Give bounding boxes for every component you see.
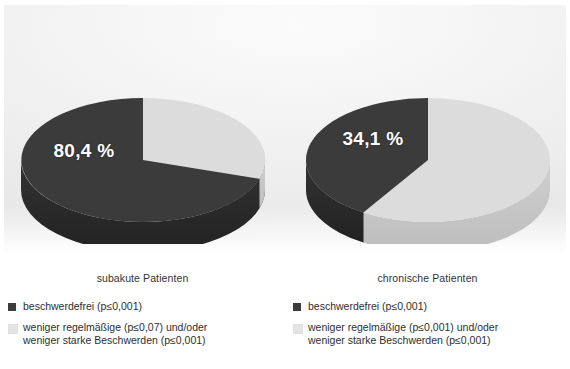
pie-svg-right <box>303 84 553 244</box>
legend-subakute: beschwerdefrei (p≤0,001) weniger regelmä… <box>8 300 283 355</box>
legend-line: beschwerdefrei (p≤0,001) <box>23 300 283 314</box>
legend-label: weniger regelmäßige (p≤0,001) und/oder w… <box>308 321 568 348</box>
pie-chart-subakute: 80,4 % subakute Patienten <box>0 0 285 300</box>
legend-item-beschwerdefrei: beschwerdefrei (p≤0,001) <box>293 300 568 314</box>
legend-swatch-light-icon <box>8 324 18 334</box>
legend-item-weniger: weniger regelmäßige (p≤0,001) und/oder w… <box>293 321 568 348</box>
pie-stage-left: 80,4 % <box>18 84 268 244</box>
legend-label: beschwerdefrei (p≤0,001) <box>23 300 283 314</box>
pie-stage-right: 34,1 % <box>303 84 553 244</box>
legend-label: beschwerdefrei (p≤0,001) <box>308 300 568 314</box>
pie-caption-right: chronische Patienten <box>285 272 570 284</box>
legend-swatch-light-icon <box>293 324 303 334</box>
legend-line: beschwerdefrei (p≤0,001) <box>308 300 568 314</box>
legend-item-weniger: weniger regelmäßige (p≤0,07) und/oder we… <box>8 321 283 348</box>
legend-line: weniger regelmäßige (p≤0,001) und/oder <box>308 321 568 335</box>
legend-swatch-dark-icon <box>293 303 301 311</box>
pie-svg-left <box>18 84 268 244</box>
legend-line: weniger regelmäßige (p≤0,07) und/oder <box>23 321 283 335</box>
legend-line: weniger starke Beschwerden (p≤0,001) <box>308 334 568 348</box>
legend-line: weniger starke Beschwerden (p≤0,001) <box>23 334 283 348</box>
legend-chronische: beschwerdefrei (p≤0,001) weniger regelmä… <box>293 300 568 355</box>
figure-pie-charts: 80,4 % subakute Patienten <box>0 0 570 369</box>
legend-item-beschwerdefrei: beschwerdefrei (p≤0,001) <box>8 300 283 314</box>
legend-swatch-dark-icon <box>8 303 16 311</box>
legend-label: weniger regelmäßige (p≤0,07) und/oder we… <box>23 321 283 348</box>
pie-value-label-left: 80,4 % <box>54 140 115 162</box>
pie-value-label-right: 34,1 % <box>343 128 404 150</box>
pie-caption-left: subakute Patienten <box>0 272 285 284</box>
pie-chart-chronische: 34,1 % chronische Patienten <box>285 0 570 300</box>
